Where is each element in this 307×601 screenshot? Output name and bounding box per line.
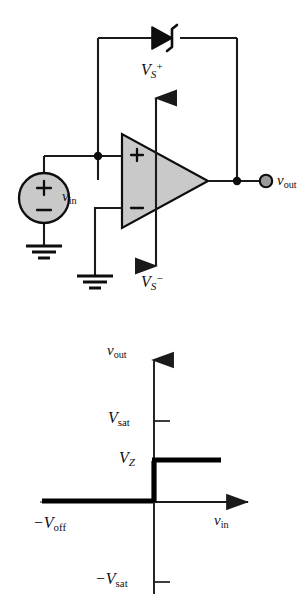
figure-root: vin VS+ VS− vout — [0, 0, 307, 601]
minus-vsat-prefix: − — [95, 570, 106, 587]
output-terminal-node — [260, 175, 272, 187]
x-axis-label: vin — [214, 512, 229, 530]
source-label-sub: in — [69, 195, 77, 206]
supply-label-vs-negative: VS− — [141, 272, 163, 292]
vs-pos-v: V — [141, 61, 151, 78]
voff-sub: off — [54, 521, 66, 533]
vz-sub: Z — [129, 456, 135, 468]
y-axis-label-sub: out — [114, 349, 127, 360]
ground-source-icon — [26, 246, 62, 258]
annotation-label-voff: −Voff — [33, 514, 66, 533]
minus-vsat-sub: sat — [116, 577, 128, 589]
y-axis-label: vout — [107, 342, 127, 360]
y-axis-label-v: v — [107, 342, 114, 358]
y-tick-label-vz: VZ — [119, 449, 135, 468]
source-label-vin: vin — [62, 188, 77, 206]
circuit-diagram — [0, 0, 307, 310]
vs-neg-sup: − — [156, 272, 162, 284]
y-tick-label-minus-vsat: −Vsat — [95, 570, 128, 589]
supply-label-vs-positive: VS+ — [141, 60, 163, 80]
output-label-v: v — [277, 172, 284, 188]
transfer-characteristic-chart — [0, 330, 307, 601]
node-output — [233, 177, 241, 185]
opamp-symbol — [122, 134, 208, 228]
output-label-vout: vout — [277, 172, 297, 190]
vs-pos-sup: + — [156, 60, 162, 72]
node-noninverting-input — [94, 152, 102, 160]
source-label-v: v — [62, 188, 69, 204]
voff-v: V — [44, 514, 54, 531]
minus-vsat-v: V — [106, 570, 116, 587]
vs-neg-v: V — [141, 273, 151, 290]
vsat-sub: sat — [118, 416, 130, 428]
output-label-sub: out — [284, 179, 297, 190]
vz-v: V — [119, 449, 129, 466]
x-axis-label-sub: in — [221, 519, 229, 530]
zener-diode-icon — [152, 25, 177, 51]
y-tick-label-vsat: Vsat — [108, 409, 130, 428]
vsat-v: V — [108, 409, 118, 426]
ground-inverting-input-icon — [77, 276, 113, 288]
voff-prefix: − — [33, 514, 44, 531]
x-axis-label-v: v — [214, 512, 221, 528]
